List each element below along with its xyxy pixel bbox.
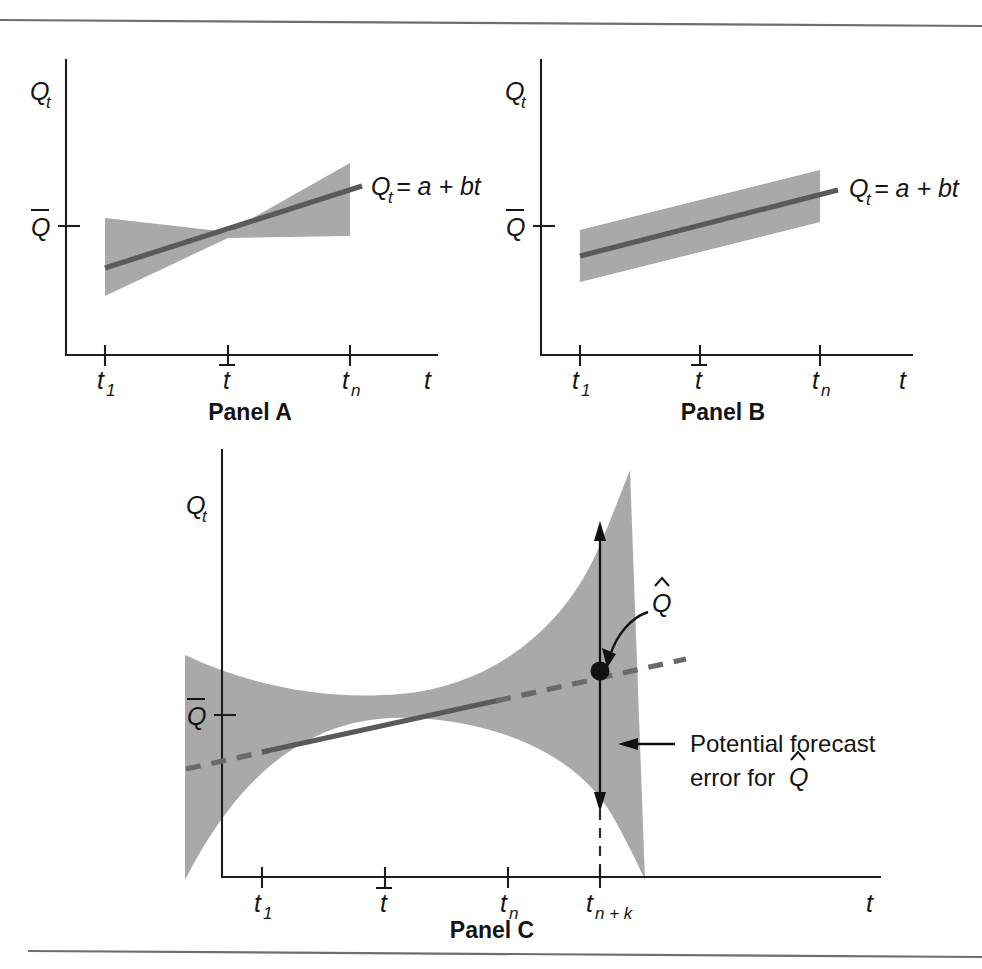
panel-a-x-tick-label-tbar: t <box>223 366 231 394</box>
panel-a-x-tick-label-tn-sub: n <box>351 381 360 400</box>
panel-c-x-tick-label-t1: t <box>254 889 262 917</box>
panel-a-x-tick-label-tn: t <box>342 366 350 394</box>
panel-c-error-bar-arrowhead-up <box>594 521 606 541</box>
panel-a-equation-rhs: = a + bt <box>396 172 482 200</box>
panel-c-annotation-line2-symbol: Q <box>789 763 808 791</box>
panel-a-y-axis-label-sub: t <box>46 93 52 112</box>
panel-c-forecast-point-hat <box>655 578 669 586</box>
panel-a-equation-lhs-sub: t <box>388 188 394 207</box>
textbook-figure-svg: Q t Q t 1 t t n t Q t = a + bt Panel A <box>0 0 982 969</box>
bottom-divider-rule <box>28 951 982 957</box>
panel-b-x-tick-label-t1-sub: 1 <box>581 381 590 400</box>
panel-c-annotation-line1: Potential forecast <box>690 730 876 757</box>
panel-c-x-axis-label: t <box>866 889 874 917</box>
panel-b-x-tick-label-t1: t <box>572 366 580 394</box>
panel-c-x-tick-label-tnk-sub: n + k <box>595 904 634 923</box>
panel-b: Q t Q t 1 t t n t Q t = a + bt Panel B <box>505 60 960 425</box>
panel-b-x-tick-label-tn: t <box>812 366 820 394</box>
panel-b-x-axis-label: t <box>899 366 907 394</box>
panel-c-x-tick-label-tn: t <box>500 889 508 917</box>
panel-a-x-axis-label: t <box>424 366 432 394</box>
panel-a-title: Panel A <box>208 399 292 425</box>
panel-b-y-tick-label: Q <box>506 213 525 241</box>
panel-c-x-tick-label-tbar: t <box>380 889 388 917</box>
panel-a-y-tick-label: Q <box>31 213 50 241</box>
panel-c-x-tick-label-tnk: t <box>586 889 594 917</box>
panel-c-confidence-band <box>185 470 645 880</box>
panel-b-x-tick-label-tn-sub: n <box>821 381 830 400</box>
panel-c-forecast-point-label: Q <box>652 589 671 617</box>
panel-b-equation-lhs-sub: t <box>866 190 872 209</box>
panel-c-title: Panel C <box>450 917 534 943</box>
panel-b-y-axis-label-sub: t <box>521 93 527 112</box>
panel-c-x-tick-label-t1-sub: 1 <box>263 904 272 923</box>
figure-container: Q t Q t 1 t t n t Q t = a + bt Panel A <box>0 0 982 969</box>
panel-c: Q Potential forecast error for Q Q t Q <box>185 450 880 943</box>
panel-b-x-tick-label-tbar: t <box>695 366 703 394</box>
panel-b-title: Panel B <box>681 399 765 425</box>
panel-a-axes <box>66 60 437 355</box>
panel-a-x-tick-label-t1: t <box>97 366 105 394</box>
panel-b-equation-rhs: = a + bt <box>874 174 960 202</box>
top-divider-rule <box>0 20 982 26</box>
panel-a: Q t Q t 1 t t n t Q t = a + bt Panel A <box>30 60 482 425</box>
panel-c-y-axis-label-sub: t <box>202 507 208 526</box>
panel-c-annotation-line2-prefix: error for <box>690 764 775 791</box>
panel-a-x-tick-label-t1-sub: 1 <box>106 381 115 400</box>
panel-c-y-tick-label: Q <box>187 702 206 730</box>
